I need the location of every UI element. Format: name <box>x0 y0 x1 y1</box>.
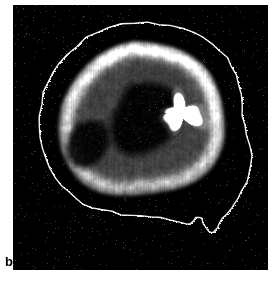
brain-scan-image <box>13 5 268 270</box>
panel-label-b: b <box>5 254 17 270</box>
brain-scan-panel <box>13 5 268 270</box>
figure-root: b <box>0 0 278 281</box>
